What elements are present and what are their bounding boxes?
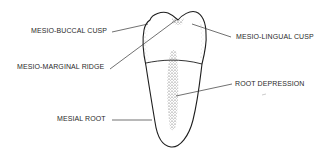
- root-depression-shading: [167, 50, 178, 130]
- leader-mesio-buccal-cusp: [112, 24, 148, 32]
- tooth-diagram: MESIO-BUCCAL CUSP MESIO-MARGINAL RIDGE M…: [0, 0, 335, 156]
- label-mesio-buccal-cusp: MESIO-BUCCAL CUSP: [31, 27, 107, 35]
- label-mesio-marginal-ridge: MESIO-MARGINAL RIDGE: [17, 63, 104, 71]
- label-root-depression: ROOT DEPRESSION: [235, 80, 304, 88]
- label-mesial-root: MESIAL ROOT: [57, 115, 106, 123]
- label-mesio-lingual-cusp: MESIO-LINGUAL CUSP: [236, 33, 314, 41]
- stray-mark: [262, 94, 266, 95]
- tooth-illustration: [0, 0, 335, 156]
